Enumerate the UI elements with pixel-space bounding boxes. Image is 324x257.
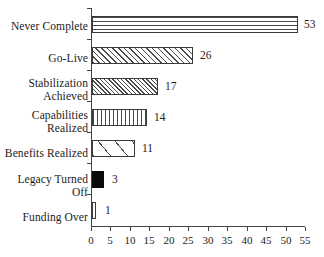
bar-benefits-realized [92,140,135,157]
category-label-never-complete: Never Complete [11,20,88,33]
x-axis-tick [169,227,170,231]
bar-value-never-complete: 53 [304,18,316,30]
bar-never-complete [92,16,298,33]
x-axis-tick [110,227,111,231]
x-axis-tick [247,227,248,231]
bar-funding-over [92,202,96,219]
category-label-capabilities-realized: Capabilities Realized [32,109,88,135]
x-axis-tick [130,227,131,231]
bar-value-benefits-realized: 11 [142,142,153,154]
x-axis-tick [91,227,92,231]
bar-capabilities-realized [92,109,147,126]
y-axis-tick [87,8,91,9]
category-label-stabilization-achieved: Stabilization Achieved [29,77,88,103]
y-axis-tick [87,70,91,71]
bar-legacy-turned-off [92,171,104,188]
bar-value-funding-over: 1 [105,204,111,216]
plot-area: 53 26 17 14 11 3 1 0 5 10 15 20 25 30 35… [91,8,305,226]
x-axis-tick [188,227,189,231]
x-axis-tick [266,227,267,231]
y-axis-tick [87,39,91,40]
x-axis-tick-label: 55 [293,234,317,246]
x-axis-tick [286,227,287,231]
category-label-funding-over: Funding Over [23,211,88,224]
x-axis-line [91,226,305,227]
y-axis-tick [87,101,91,102]
bar-chart: Never Complete Go-Live Stabilization Ach… [0,0,324,257]
bar-value-capabilities-realized: 14 [154,111,166,123]
bar-value-stabilization-achieved: 17 [165,80,177,92]
x-axis-tick [227,227,228,231]
x-axis-tick [305,227,306,231]
category-label-go-live: Go-Live [48,52,88,65]
x-axis-tick [149,227,150,231]
bar-value-go-live: 26 [200,49,212,61]
y-axis-tick [87,132,91,133]
category-label-legacy-turned-off: Legacy Turned Off [17,173,88,199]
y-axis-tick [87,163,91,164]
bar-value-legacy-turned-off: 3 [112,173,118,185]
category-label-benefits-realized: Benefits Realized [0,147,88,160]
y-axis-tick [87,194,91,195]
bar-go-live [92,47,193,64]
bar-stabilization-achieved [92,78,158,95]
x-axis-tick [208,227,209,231]
